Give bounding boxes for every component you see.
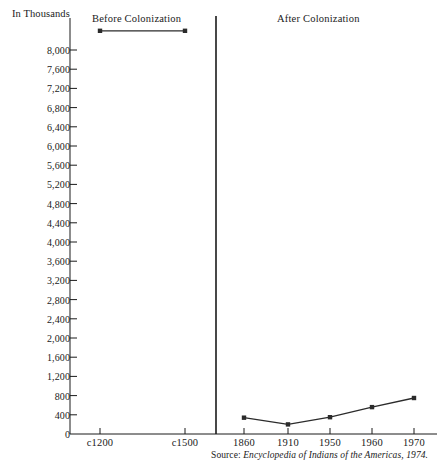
plot-area (0, 0, 444, 470)
data-point-marker (328, 415, 332, 419)
population-chart: In Thousands Before Colonization After C… (0, 0, 444, 470)
data-point-marker (98, 29, 102, 33)
series-line-after (244, 398, 414, 424)
source-note: Source: Encyclopedia of Indians of the A… (211, 450, 428, 460)
data-point-marker (242, 415, 246, 419)
source-citation: Encyclopedia of Indians of the Americas,… (243, 450, 428, 460)
data-point-marker (412, 396, 416, 400)
data-point-marker (183, 29, 187, 33)
data-point-marker (370, 405, 374, 409)
data-point-marker (286, 422, 290, 426)
source-prefix: Source: (211, 450, 243, 460)
